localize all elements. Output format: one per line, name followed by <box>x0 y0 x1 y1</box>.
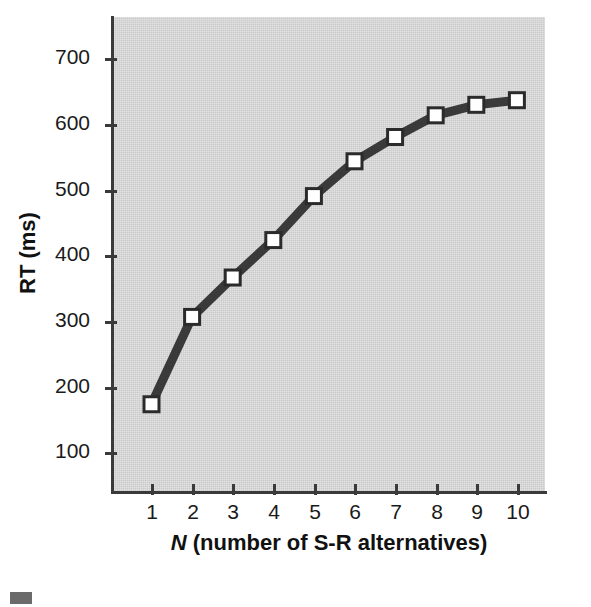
x-tick-label-5: 5 <box>295 500 335 524</box>
x-tick-5 <box>314 484 317 495</box>
y-tick-700 <box>105 58 117 61</box>
caption-artifact <box>10 592 32 604</box>
x-tick-label-10: 10 <box>498 500 538 524</box>
x-tick-8 <box>436 484 439 495</box>
x-tick-label-6: 6 <box>335 500 375 524</box>
y-tick-label-100: 100 <box>30 439 90 463</box>
y-tick-400 <box>105 255 117 258</box>
x-tick-3 <box>232 484 235 495</box>
x-tick-10 <box>517 484 520 495</box>
x-tick-label-3: 3 <box>213 500 253 524</box>
x-tick-label-2: 2 <box>173 500 213 524</box>
y-tick-200 <box>105 387 117 390</box>
x-tick-6 <box>354 484 357 495</box>
y-tick-500 <box>105 190 117 193</box>
x-axis-line <box>111 491 547 494</box>
figure-canvas: 700 600 500 400 300 200 100 1 2 3 4 5 6 … <box>0 0 591 607</box>
x-tick-7 <box>395 484 398 495</box>
y-tick-label-200: 200 <box>30 374 90 398</box>
y-axis-title: RT (ms) <box>15 183 41 323</box>
x-axis-title-rest: (number of S-R alternatives) <box>187 530 488 555</box>
x-tick-4 <box>273 484 276 495</box>
y-tick-100 <box>105 452 117 455</box>
y-tick-600 <box>105 124 117 127</box>
x-tick-9 <box>476 484 479 495</box>
x-tick-label-9: 9 <box>457 500 497 524</box>
x-tick-label-4: 4 <box>254 500 294 524</box>
y-tick-300 <box>105 321 117 324</box>
x-axis-title-variable: N <box>171 530 187 555</box>
x-tick-1 <box>151 484 154 495</box>
x-tick-2 <box>192 484 195 495</box>
x-axis-title: N (number of S-R alternatives) <box>113 530 545 556</box>
y-tick-label-700: 700 <box>30 45 90 69</box>
x-tick-label-7: 7 <box>376 500 416 524</box>
x-tick-label-8: 8 <box>417 500 457 524</box>
x-tick-label-1: 1 <box>132 500 172 524</box>
y-tick-label-600: 600 <box>30 111 90 135</box>
plot-area <box>113 17 545 493</box>
